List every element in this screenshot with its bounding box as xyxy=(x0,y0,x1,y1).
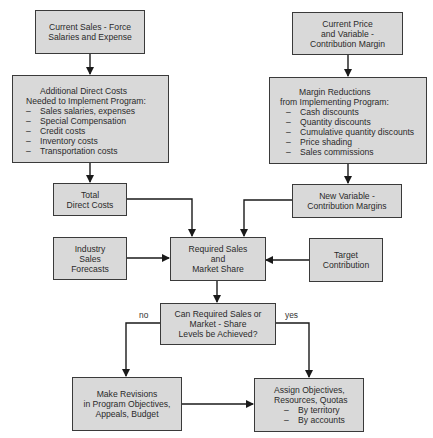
node-heading: Resources, Quotas xyxy=(274,395,363,405)
node-additional-direct-costs: Additional Direct Costs Needed to Implem… xyxy=(12,75,169,163)
node-text: Contribution Margin xyxy=(310,39,385,49)
node-text: Required Sales xyxy=(189,244,248,254)
node-text: Levels be Achieved? xyxy=(179,329,258,339)
node-text: Appeals, Budget xyxy=(95,409,158,419)
node-text: in Program Objectives, xyxy=(84,399,171,409)
list-item: –By territory xyxy=(284,405,363,415)
node-text: New Variable - xyxy=(319,191,375,201)
node-assign-objectives: Assign Objectives, Resources, Quotas –By… xyxy=(254,378,364,432)
edge-label-yes: yes xyxy=(285,310,298,320)
node-text: Direct Costs xyxy=(67,200,114,210)
node-text: Can Required Sales or xyxy=(175,309,262,319)
node-text: Contribution xyxy=(323,260,369,270)
node-margin-reductions: Margin Reductions from Implementing Prog… xyxy=(269,77,427,164)
node-new-variable-margins: New Variable - Contribution Margins xyxy=(292,184,402,218)
cost-list: –Sales salaries, expenses –Special Compe… xyxy=(26,106,168,156)
node-text: and Variable - xyxy=(321,29,374,39)
node-text: Sales xyxy=(79,254,101,264)
node-text: Total xyxy=(81,190,99,200)
node-heading: Additional Direct Costs xyxy=(26,86,168,96)
node-industry-sales-forecasts: Industry Sales Forecasts xyxy=(53,237,127,280)
node-target-contribution: Target Contribution xyxy=(309,238,383,282)
node-decision: Can Required Sales or Market - Share Lev… xyxy=(160,303,276,345)
list-item: –Special Compensation xyxy=(26,116,168,126)
node-text: Current Price xyxy=(322,19,373,29)
list-item: –Sales salaries, expenses xyxy=(26,106,168,116)
node-text: Salaries and Expense xyxy=(48,32,132,42)
list-item: –Credit costs xyxy=(26,126,168,136)
node-text: Contribution Margins xyxy=(307,201,386,211)
node-heading: Assign Objectives, xyxy=(274,385,363,395)
node-text: Make Revisions xyxy=(97,389,158,399)
list-item: –Inventory costs xyxy=(26,136,168,146)
edge-label-no: no xyxy=(139,310,148,320)
node-text: Current Sales - Force xyxy=(49,22,131,32)
assignment-list: –By territory –By accounts xyxy=(274,405,363,425)
list-item: –Price shading xyxy=(286,137,426,147)
list-item: –Quantity discounts xyxy=(286,117,426,127)
node-required-sales: Required Sales and Market Share xyxy=(170,237,266,281)
node-current-price: Current Price and Variable - Contributio… xyxy=(292,12,403,55)
list-item: –Sales commissions xyxy=(286,147,426,157)
node-heading: Needed to Implement Program: xyxy=(26,96,168,106)
node-heading: from Implementing Program: xyxy=(280,97,426,107)
node-heading: Margin Reductions xyxy=(280,87,426,97)
list-item: –Cumulative quantity discounts xyxy=(286,127,426,137)
node-total-direct-costs: Total Direct Costs xyxy=(53,183,127,216)
node-current-sales-force: Current Sales - Force Salaries and Expen… xyxy=(35,10,145,54)
node-text: and xyxy=(211,254,225,264)
reduction-list: –Cash discounts –Quantity discounts –Cum… xyxy=(280,107,426,157)
node-make-revisions: Make Revisions in Program Objectives, Ap… xyxy=(72,377,182,431)
list-item: –Cash discounts xyxy=(286,107,426,117)
node-text: Market - Share xyxy=(190,319,247,329)
connector-lines xyxy=(0,0,433,438)
node-text: Target xyxy=(334,250,358,260)
node-text: Forecasts xyxy=(71,264,109,274)
list-item: –Transportation costs xyxy=(26,146,168,156)
node-text: Industry xyxy=(75,244,106,254)
node-text: Market Share xyxy=(192,264,244,274)
list-item: –By accounts xyxy=(284,415,363,425)
